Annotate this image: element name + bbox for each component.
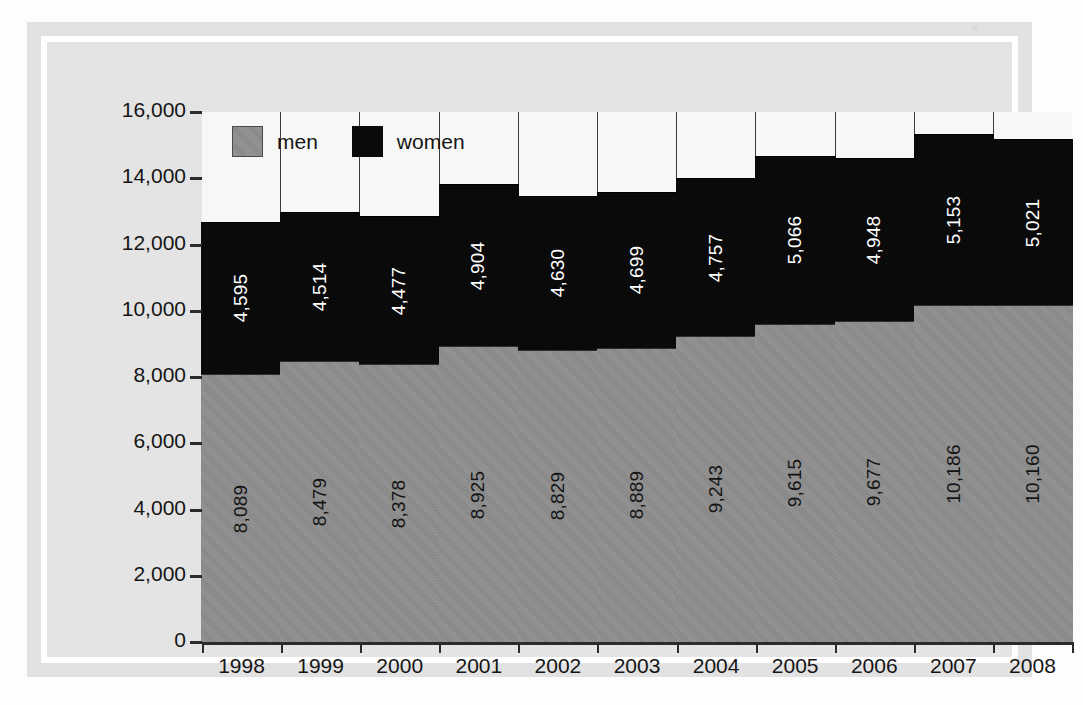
bar-segment-men: 8,829 (518, 350, 598, 642)
y-axis-tick-label: 14,000 (66, 164, 186, 188)
bar-value-label-women: 4,630 (547, 249, 569, 298)
legend-item-label: women (397, 130, 465, 154)
y-axis-tick (190, 641, 202, 644)
y-axis-tick-label: 8,000 (66, 363, 186, 387)
bar-column: 9,6155,066 (756, 112, 835, 642)
bar-segment-men: 10,160 (993, 305, 1073, 642)
y-axis-tick-label: 16,000 (66, 98, 186, 122)
bar-value-label-women: 4,595 (230, 274, 252, 323)
x-axis-tick-label: 1999 (276, 654, 366, 678)
bar-value-label-men: 10,160 (1022, 445, 1044, 504)
bar-segment-women: 5,021 (993, 139, 1073, 305)
bar-value-label-women: 4,514 (309, 263, 331, 312)
chart-white-border: 8,0894,5958,4794,5148,3784,4778,9254,904… (41, 36, 1018, 663)
y-axis-tick (190, 244, 202, 247)
bar-segment-men: 9,615 (755, 324, 835, 642)
y-axis-tick-label: 6,000 (66, 429, 186, 453)
square-swatch-icon (352, 126, 383, 157)
bar-segment-women: 4,699 (597, 192, 677, 348)
x-axis-tick (518, 642, 520, 653)
x-axis-tick-label: 2008 (987, 654, 1077, 678)
bar-segment-men: 8,925 (439, 346, 519, 642)
x-axis-tick-label: 2001 (434, 654, 524, 678)
y-axis-tick-label: 12,000 (66, 231, 186, 255)
y-axis-tick-label: 10,000 (66, 297, 186, 321)
stacked-bar-group: 8,0894,5958,4794,5148,3784,4778,9254,904… (202, 112, 1072, 642)
y-axis-tick (190, 111, 202, 114)
x-axis-tick-label: 2000 (355, 654, 445, 678)
x-axis-tick-label: 1998 (197, 654, 287, 678)
x-axis-tick (993, 642, 995, 653)
bar-segment-women: 4,514 (280, 212, 360, 362)
bar-column: 8,3784,477 (360, 112, 439, 642)
bar-segment-women: 4,757 (676, 178, 756, 336)
page-canvas: 8,0894,5958,4794,5148,3784,4778,9254,904… (0, 0, 1083, 705)
bar-value-label-men: 8,925 (468, 470, 490, 519)
bar-value-label-men: 8,889 (626, 471, 648, 520)
bar-value-label-men: 9,677 (864, 458, 886, 507)
x-axis-tick (914, 642, 916, 653)
legend-item: women (352, 126, 465, 157)
bar-value-label-women: 4,904 (468, 241, 490, 290)
x-axis-tick (756, 642, 758, 653)
bar-column: 8,9254,904 (440, 112, 519, 642)
bar-segment-men: 8,378 (359, 364, 439, 642)
bar-column: 9,2434,757 (677, 112, 756, 642)
x-axis-tick (597, 642, 599, 653)
y-axis-tick-label: 2,000 (66, 562, 186, 586)
bar-value-label-men: 8,829 (547, 472, 569, 521)
y-axis-tick (190, 575, 202, 578)
bar-value-label-women: 4,699 (626, 246, 648, 295)
bar-value-label-women: 5,066 (784, 216, 806, 265)
x-axis-tick-label: 2005 (750, 654, 840, 678)
chart-outer-frame: 8,0894,5958,4794,5148,3784,4778,9254,904… (27, 22, 1032, 677)
x-axis-line (202, 642, 1074, 645)
plot-area: 8,0894,5958,4794,5148,3784,4778,9254,904… (202, 112, 1072, 642)
bar-segment-women: 4,904 (439, 184, 519, 346)
bar-segment-men: 8,479 (280, 361, 360, 642)
chart-figure: 8,0894,5958,4794,5148,3784,4778,9254,904… (47, 42, 1012, 657)
bar-segment-women: 5,153 (914, 134, 994, 305)
x-axis-tick-label: 2004 (671, 654, 761, 678)
y-axis-tick (190, 310, 202, 313)
legend-item-label: men (277, 130, 318, 154)
bar-column: 10,1605,021 (994, 112, 1072, 642)
bar-value-label-women: 4,948 (864, 216, 886, 265)
bar-value-label-men: 9,615 (784, 459, 806, 508)
bar-segment-men: 8,889 (597, 348, 677, 642)
x-axis-tick (835, 642, 837, 653)
x-axis-tick-label: 2007 (908, 654, 998, 678)
bar-segment-men: 8,089 (201, 374, 281, 642)
bar-value-label-women: 5,021 (1022, 199, 1044, 248)
bar-segment-men: 9,243 (676, 336, 756, 642)
bar-column: 10,1865,153 (915, 112, 994, 642)
x-axis-tick (360, 642, 362, 653)
bar-segment-women: 4,630 (518, 196, 598, 349)
x-axis-tick (439, 642, 441, 653)
chart-legend: menwomen (232, 126, 465, 157)
bar-segment-men: 9,677 (835, 321, 915, 642)
y-axis-tick (190, 177, 202, 180)
x-axis-tick (1072, 642, 1074, 653)
bar-value-label-men: 8,378 (388, 479, 410, 528)
bar-segment-women: 4,477 (359, 216, 439, 364)
bar-segment-women: 5,066 (755, 156, 835, 324)
y-axis-tick (190, 376, 202, 379)
x-axis-tick-label: 2003 (592, 654, 682, 678)
corner-smudge-mark (970, 24, 980, 32)
bar-segment-men: 10,186 (914, 305, 994, 642)
bar-column: 8,4794,514 (281, 112, 360, 642)
x-axis-tick (202, 642, 204, 653)
bar-value-label-women: 4,757 (705, 233, 727, 282)
x-axis-tick (281, 642, 283, 653)
bar-column: 9,6774,948 (836, 112, 915, 642)
bar-value-label-men: 8,089 (230, 484, 252, 533)
bar-value-label-women: 5,153 (943, 195, 965, 244)
y-axis-tick-label: 0 (66, 628, 186, 652)
bar-value-label-men: 8,479 (309, 478, 331, 527)
x-axis-tick (677, 642, 679, 653)
bar-segment-women: 4,948 (835, 158, 915, 322)
bar-value-label-men: 9,243 (705, 465, 727, 514)
y-axis-tick-label: 4,000 (66, 496, 186, 520)
legend-item: men (232, 126, 318, 157)
